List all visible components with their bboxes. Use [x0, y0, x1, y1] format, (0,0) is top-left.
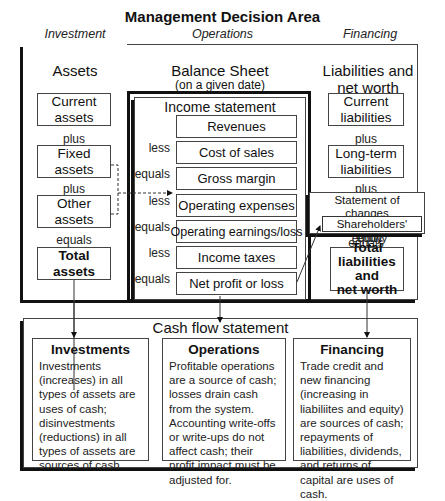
- dashed-bracket: [111, 165, 118, 214]
- profit-to-equity-arrow-icon: [297, 226, 320, 282]
